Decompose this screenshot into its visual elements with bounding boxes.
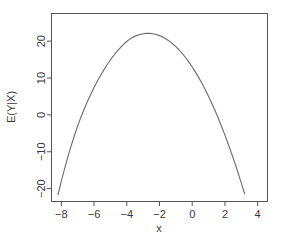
y-tick-label: −20: [35, 179, 47, 198]
x-tick-label: −8: [55, 208, 68, 220]
x-axis-title: x: [156, 222, 162, 234]
y-tick-label: −10: [35, 142, 47, 161]
x-tick-label: 4: [255, 208, 261, 220]
x-tick-label: 2: [222, 208, 228, 220]
plot-canvas: −8−6−4−2024 −20−1001020 x E(Y|X): [0, 0, 283, 246]
y-tick-label: 10: [35, 72, 47, 84]
y-tick-label: 20: [35, 35, 47, 47]
x-tick-label: −2: [153, 208, 166, 220]
plot-figure: −8−6−4−2024 −20−1001020 x E(Y|X): [0, 0, 283, 246]
x-tick-label: −4: [120, 208, 133, 220]
y-tick-label: 0: [35, 112, 47, 118]
x-tick-label: 0: [189, 208, 195, 220]
x-tick-label: −6: [88, 208, 101, 220]
y-axis-title: E(Y|X): [5, 91, 17, 123]
